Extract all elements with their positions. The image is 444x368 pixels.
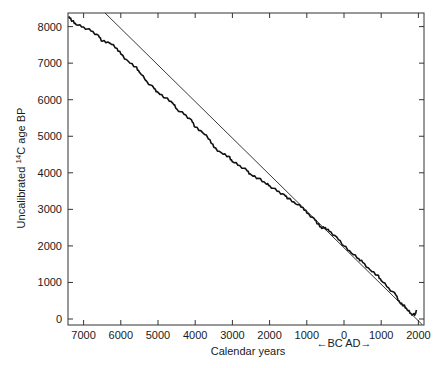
x-tick-label: 6000 <box>109 329 133 341</box>
x-tick-label: 2000 <box>257 329 281 341</box>
y-tick-label: 4000 <box>38 167 62 179</box>
y-tick-label: 1000 <box>38 276 62 288</box>
y-tick-label: 0 <box>56 313 62 325</box>
y-tick-label: 7000 <box>38 57 62 69</box>
y-tick-label: 3000 <box>38 203 62 215</box>
y-tick-label: 5000 <box>38 130 62 142</box>
y-tick-label: 2000 <box>38 240 62 252</box>
x-tick-label: 3000 <box>220 329 244 341</box>
y-axis-title: Uncalibrated 14C age BP <box>14 108 27 229</box>
y-axis-title-suffix: C age BP <box>15 108 27 155</box>
calibration-curve <box>69 16 417 315</box>
y-axis-ticks: 010002000300040005000600070008000 <box>38 21 424 325</box>
x-tick-label: 1000 <box>369 329 393 341</box>
data-series <box>69 10 422 324</box>
x-axis-ticks: 7000600050004000300020001000010002000 <box>71 13 430 341</box>
x-tick-label: 7000 <box>71 329 95 341</box>
bc-ad-indicator: ←BC AD→ <box>316 337 371 349</box>
x-axis-title: Calendar years <box>211 345 286 357</box>
one-to-one-line <box>102 10 422 324</box>
y-tick-label: 8000 <box>38 21 62 33</box>
y-tick-label: 6000 <box>38 94 62 106</box>
x-tick-label: 4000 <box>183 329 207 341</box>
x-tick-label: 1000 <box>295 329 319 341</box>
x-tick-label: 5000 <box>146 329 170 341</box>
y-axis-title-prefix: Uncalibrated <box>15 164 27 229</box>
x-tick-label: 2000 <box>406 329 430 341</box>
radiocarbon-chart: 7000600050004000300020001000010002000 01… <box>0 0 444 368</box>
